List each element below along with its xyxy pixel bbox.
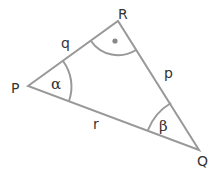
side-label-p: p [164,65,173,81]
angle-label-beta: β [159,117,168,135]
angle-arc-alpha [63,61,71,101]
right-angle-dot [112,38,117,43]
side-label-q: q [61,35,70,51]
triangle-diagram: R P Q q p r α β [0,0,224,171]
vertex-label-p: P [11,80,19,96]
angle-arc-r [91,41,136,55]
vertex-label-q: Q [197,153,208,169]
vertex-label-r: R [118,6,128,22]
angle-label-alpha: α [51,75,61,93]
side-label-r: r [93,116,99,132]
